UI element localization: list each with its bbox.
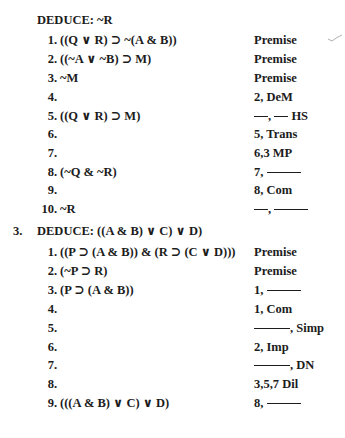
justification: Premise [254,33,297,48]
justification-blank: 1, [254,283,301,298]
justification-blank: , DN [254,358,314,373]
formula: ((P ⊃ (A & B)) & (R ⊃ (C ∨ D))) [60,245,236,260]
formula: (((A & B) ∨ C) ∨ D) [60,396,169,411]
formula: ~M [60,71,78,86]
justification-blank: 8, [254,396,301,411]
answer-blank[interactable] [254,365,290,366]
line-number: 2. [43,264,57,279]
line-number: 5. [43,109,57,124]
answer-blank[interactable] [267,172,301,173]
formula: ((Q ∨ R) ⊃ M) [60,109,140,124]
line-number: 2. [43,52,57,67]
checkmark-icon [327,34,343,42]
line-number: 10. [38,202,57,217]
justification: Premise [254,264,297,279]
formula: ((Q ∨ R) ⊃ ~(A & B)) [60,33,177,48]
justification: 1, Com [254,302,292,317]
justification: 2, DeM [254,90,293,105]
line-number: 4. [43,302,57,317]
justification: Premise [254,71,297,86]
justification: 2, Imp [254,340,289,355]
line-number: 6. [43,340,57,355]
answer-blank[interactable] [274,209,308,210]
justification: Premise [254,245,297,260]
problem2-header: DEDUCE: ~R [37,13,113,28]
line-number: 9. [43,396,57,411]
answer-blank[interactable] [254,328,290,329]
formula: (~Q & ~R) [60,165,117,180]
justification-blank: , Simp [254,321,324,336]
justification: 8, Com [254,183,292,198]
justification-hs: , HS [254,109,308,124]
answer-blank[interactable] [274,116,288,117]
line-number: 1. [43,33,57,48]
justification: 6,3 MP [254,146,292,161]
line-number: 1. [43,245,57,260]
line-number: 5. [43,321,57,336]
line-number: 9. [43,183,57,198]
line-number: 3. [43,283,57,298]
line-number: 7. [43,146,57,161]
formula: (~P ⊃ R) [60,264,108,279]
formula: ~R [60,202,76,217]
answer-blank[interactable] [267,403,301,404]
problem3-header: DEDUCE: ((A & B) ∨ C) ∨ D) [37,224,202,239]
answer-blank[interactable] [254,209,268,210]
line-number: 3. [43,71,57,86]
answer-blank[interactable] [267,290,301,291]
justification-blank: , [254,202,308,217]
formula: ((~A ∨ ~B) ⊃ M) [60,52,151,67]
line-number: 4. [43,90,57,105]
line-number: 7. [43,358,57,373]
justification-blank: 7, [254,165,301,180]
justification: 5, Trans [254,127,297,142]
problem3-number: 3. [13,224,22,239]
formula: (P ⊃ (A & B)) [60,283,134,298]
line-number: 8. [43,165,57,180]
justification: 3,5,7 Dil [254,377,298,392]
line-number: 8. [43,377,57,392]
justification: Premise [254,52,297,67]
line-number: 6. [43,127,57,142]
answer-blank[interactable] [254,116,268,117]
